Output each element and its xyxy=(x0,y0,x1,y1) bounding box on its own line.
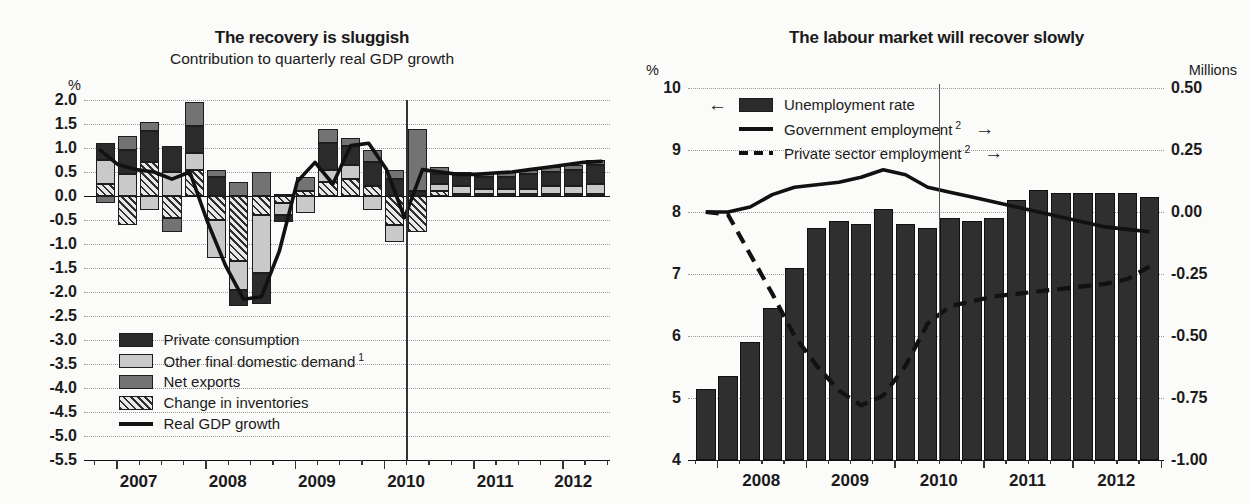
right-chart-legend: ←Unemployment rate←Government employment… xyxy=(708,93,1003,165)
right-y-tick-label-right: 0.00 xyxy=(1164,203,1202,221)
right-legend-label: Private sector employment 2 xyxy=(784,143,970,162)
legend-axis-arrow-left-icon: ← xyxy=(708,95,727,114)
left-y-tick-label: 2.0 xyxy=(55,91,84,109)
right-x-tick xyxy=(717,460,719,468)
left-x-tick xyxy=(384,460,386,469)
right-x-axis-year-label: 2009 xyxy=(831,471,869,491)
right-x-tick xyxy=(1005,460,1006,464)
right-legend-label: Unemployment rate xyxy=(784,96,915,113)
left-x-axis-year-label: 2010 xyxy=(387,472,425,492)
left-x-axis-year-label: 2007 xyxy=(120,472,158,492)
left-legend-label: Other final domestic demand 1 xyxy=(164,351,365,370)
left-x-tick xyxy=(94,460,95,465)
legend-axis-arrow-right-icon: → xyxy=(975,119,994,138)
left-legend-key-swatch-light xyxy=(119,354,153,368)
right-x-tick xyxy=(783,460,784,464)
left-x-tick xyxy=(361,460,362,465)
right-x-axis-year-label: 2010 xyxy=(920,471,958,491)
right-y-tick-label-right: -0.25 xyxy=(1164,265,1207,283)
left-x-tick xyxy=(228,460,229,465)
right-x-tick xyxy=(1138,460,1139,464)
left-x-tick xyxy=(183,460,184,465)
left-y-tick-label: -5.0 xyxy=(49,427,84,445)
left-x-tick xyxy=(562,460,564,469)
right-x-axis-year-label: 2012 xyxy=(1097,471,1135,491)
left-x-axis-year-label: 2012 xyxy=(554,472,592,492)
right-x-tick xyxy=(828,460,829,464)
left-x-tick xyxy=(473,460,475,469)
left-x-axis-year-label: 2011 xyxy=(477,472,514,492)
right-x-tick xyxy=(872,460,873,464)
right-x-tick xyxy=(894,460,896,468)
left-legend-label: Private consumption xyxy=(164,331,300,348)
right-x-tick xyxy=(1116,460,1117,464)
left-x-tick xyxy=(116,460,118,469)
left-chart-title: The recovery is sluggish xyxy=(0,28,624,48)
right-y-tick-label-left: 4 xyxy=(672,451,688,469)
left-x-tick xyxy=(161,460,162,465)
right-x-tick xyxy=(806,460,808,468)
right-y-tick-label-right: 0.25 xyxy=(1164,141,1202,159)
left-y-tick-label: -1.5 xyxy=(49,259,84,277)
right-x-tick xyxy=(1161,460,1163,468)
left-y-tick-label: -2.0 xyxy=(49,283,84,301)
left-y-tick-label: -4.5 xyxy=(49,403,84,421)
right-y-tick-label-left: 6 xyxy=(672,327,688,345)
right-legend-footnote: 2 xyxy=(962,143,971,155)
left-legend-label: Real GDP growth xyxy=(164,415,280,432)
right-x-tick xyxy=(761,460,762,464)
right-x-axis-year-label: 2008 xyxy=(742,471,780,491)
left-y-tick-label: -4.0 xyxy=(49,379,84,397)
left-legend-label: Net exports xyxy=(164,373,241,390)
right-legend-key-swatch-dark xyxy=(739,98,773,112)
right-x-tick xyxy=(1094,460,1095,464)
right-y-tick-label-right: -0.50 xyxy=(1164,327,1207,345)
left-legend-item: Net exports xyxy=(119,371,365,392)
right-y-tick-label-right: 0.50 xyxy=(1164,79,1202,97)
left-legend-item: Change in inventories xyxy=(119,392,365,413)
left-y-tick-label: -2.5 xyxy=(49,307,84,325)
right-y-tick-label-left: 9 xyxy=(672,141,688,159)
right-x-tick xyxy=(850,460,851,464)
left-legend-key-swatch-mid xyxy=(119,375,153,389)
left-y-tick-label: -3.5 xyxy=(49,355,84,373)
left-legend-footnote: 1 xyxy=(355,351,364,363)
left-x-axis-year-label: 2009 xyxy=(298,472,336,492)
left-x-tick xyxy=(317,460,318,465)
left-legend-label: Change in inventories xyxy=(164,394,309,411)
right-x-tick xyxy=(1050,460,1051,464)
left-chart-subtitle: Contribution to quarterly real GDP growt… xyxy=(0,50,624,68)
right-legend-item: ←Government employment 2→ xyxy=(708,117,1003,141)
left-y-tick-label: 1.0 xyxy=(55,139,84,157)
right-y-tick-label-left: 10 xyxy=(663,79,688,97)
right-legend-key-line-solid xyxy=(739,122,773,136)
right-x-tick xyxy=(961,460,962,464)
left-x-tick xyxy=(250,460,251,465)
left-legend-key-swatch-dark xyxy=(119,333,153,347)
right-x-tick xyxy=(739,460,740,464)
left-chart-legend: Private consumptionOther final domestic … xyxy=(119,329,365,434)
left-x-tick xyxy=(205,460,207,469)
left-x-tick xyxy=(295,460,297,469)
left-x-tick xyxy=(406,460,407,465)
right-y-tick-label-right: -0.75 xyxy=(1164,389,1207,407)
right-legend-item: ←Private sector employment 2→ xyxy=(708,141,1003,165)
left-x-tick xyxy=(428,460,429,465)
left-x-axis-year-label: 2008 xyxy=(209,472,247,492)
right-chart-title: The labour market will recover slowly xyxy=(624,28,1249,48)
right-legend-item: ←Unemployment rate xyxy=(708,93,1003,117)
left-x-tick xyxy=(451,460,452,465)
left-legend-key-line-solid xyxy=(119,417,153,431)
left-x-tick xyxy=(495,460,496,465)
left-forecast-divider xyxy=(406,100,408,460)
left-y-tick-label: -0.5 xyxy=(49,211,84,229)
right-y-tick-label-right: -1.00 xyxy=(1164,451,1207,469)
right-chart-panel: The labour market will recover slowly % … xyxy=(624,0,1249,504)
right-y-tick-label-left: 7 xyxy=(672,265,688,283)
left-legend-item: Other final domestic demand 1 xyxy=(119,350,365,371)
right-x-tick xyxy=(917,460,918,464)
right-x-tick xyxy=(1072,460,1074,468)
left-y-tick-label: 0.0 xyxy=(55,187,84,205)
right-legend-footnote: 2 xyxy=(952,119,961,131)
left-x-tick xyxy=(139,460,140,465)
